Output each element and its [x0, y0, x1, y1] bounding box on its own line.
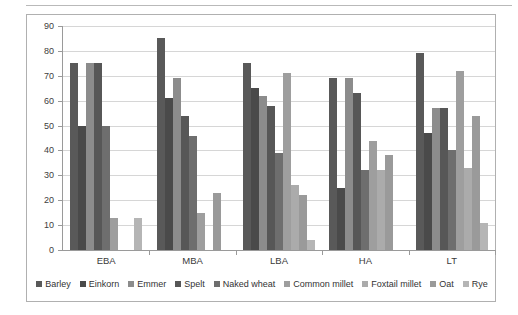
bar-group: [409, 26, 495, 250]
bar-common-millet[interactable]: [456, 71, 464, 250]
bar-spelt[interactable]: [94, 63, 102, 250]
x-axis-line: [62, 250, 496, 251]
bar-oat[interactable]: [213, 193, 221, 250]
legend-swatch-icon: [284, 281, 290, 287]
x-axis-category-tick: [495, 250, 496, 255]
bar-emmer[interactable]: [432, 108, 440, 250]
bar-emmer[interactable]: [345, 78, 353, 250]
bar-spelt[interactable]: [353, 93, 361, 250]
y-axis-tick-label: 70: [44, 71, 54, 80]
y-axis-tick-label: 50: [44, 121, 54, 130]
x-axis-category-labels: EBAMBALBAHALT: [63, 255, 495, 273]
bar-plot-area: [63, 26, 495, 250]
legend-item-common-millet[interactable]: Common millet: [284, 279, 353, 289]
bar-spelt[interactable]: [267, 106, 275, 250]
legend-item-label: Spelt: [184, 279, 205, 289]
bar-rye[interactable]: [480, 223, 488, 250]
bar-barley[interactable]: [329, 78, 337, 250]
bar-einkorn[interactable]: [337, 188, 345, 250]
legend-swatch-icon: [214, 281, 220, 287]
bar-common-millet[interactable]: [283, 73, 291, 250]
legend-item-label: Common millet: [293, 279, 353, 289]
bar-oat[interactable]: [299, 195, 307, 250]
legend-item-naked-wheat[interactable]: Naked wheat: [214, 279, 276, 289]
x-axis-category-tick: [149, 250, 150, 255]
legend-item-label: Naked wheat: [223, 279, 276, 289]
bar-group: [322, 26, 408, 250]
bar-oat[interactable]: [472, 116, 480, 250]
top-divider-rule: [26, 5, 512, 6]
legend-swatch-icon: [175, 281, 181, 287]
bar-naked-wheat[interactable]: [102, 126, 110, 250]
bar-common-millet[interactable]: [369, 141, 377, 251]
y-axis-tick-label: 90: [44, 22, 54, 31]
x-axis-label-lba: LBA: [270, 255, 288, 266]
legend-swatch-icon: [128, 281, 134, 287]
bar-group: [236, 26, 322, 250]
x-axis-label-lt: LT: [447, 255, 457, 266]
y-axis-tick-label: 40: [44, 146, 54, 155]
y-axis-tick-mark: [58, 250, 62, 251]
bar-naked-wheat[interactable]: [448, 150, 456, 250]
bar-foxtail-millet[interactable]: [377, 170, 385, 250]
bar-barley[interactable]: [243, 63, 251, 250]
legend-item-emmer[interactable]: Emmer: [128, 279, 166, 289]
y-axis-tick-mark: [58, 51, 62, 52]
y-axis-tick-label: 0: [49, 246, 54, 255]
bar-einkorn[interactable]: [424, 133, 432, 250]
legend-item-label: Emmer: [137, 279, 166, 289]
bar-emmer[interactable]: [86, 63, 94, 250]
bar-naked-wheat[interactable]: [275, 153, 283, 250]
legend-item-rye[interactable]: Rye: [463, 279, 488, 289]
bar-rye[interactable]: [307, 240, 315, 250]
bar-einkorn[interactable]: [251, 88, 259, 250]
bar-common-millet[interactable]: [110, 218, 118, 250]
y-axis-labels: 9080706050403020100: [27, 15, 57, 265]
legend-item-label: Einkorn: [89, 279, 120, 289]
chart-legend: BarleyEinkornEmmerSpeltNaked wheatCommon…: [27, 279, 497, 289]
y-axis-tick-mark: [58, 225, 62, 226]
bar-spelt[interactable]: [440, 108, 448, 250]
legend-swatch-icon: [36, 281, 42, 287]
y-axis-tick-label: 20: [44, 196, 54, 205]
legend-item-label: Foxtail millet: [371, 279, 421, 289]
y-axis-tick-mark: [58, 26, 62, 27]
legend-item-oat[interactable]: Oat: [430, 279, 454, 289]
bar-rye[interactable]: [134, 218, 142, 250]
y-axis-tick-mark: [58, 200, 62, 201]
y-axis-tick-mark: [58, 76, 62, 77]
bar-emmer[interactable]: [173, 78, 181, 250]
y-axis-tick-mark: [58, 175, 62, 176]
legend-swatch-icon: [362, 281, 368, 287]
bar-einkorn[interactable]: [78, 126, 86, 250]
chart-plot-wrapper: 9080706050403020100 EBAMBALBAHALT Barley…: [27, 15, 497, 303]
y-axis-tick-label: 10: [44, 221, 54, 230]
bar-naked-wheat[interactable]: [361, 170, 369, 250]
bar-einkorn[interactable]: [165, 98, 173, 250]
legend-swatch-icon: [80, 281, 86, 287]
x-axis-category-tick: [236, 250, 237, 255]
x-axis-category-tick: [322, 250, 323, 255]
legend-item-label: Rye: [472, 279, 488, 289]
x-axis-category-tick: [409, 250, 410, 255]
bar-barley[interactable]: [416, 53, 424, 250]
legend-swatch-icon: [430, 281, 436, 287]
bar-group: [63, 26, 149, 250]
bar-barley[interactable]: [157, 38, 165, 250]
legend-item-label: Barley: [45, 279, 71, 289]
legend-item-einkorn[interactable]: Einkorn: [80, 279, 120, 289]
bar-common-millet[interactable]: [197, 213, 205, 250]
y-axis-tick-label: 80: [44, 46, 54, 55]
bar-foxtail-millet[interactable]: [464, 168, 472, 250]
legend-item-spelt[interactable]: Spelt: [175, 279, 205, 289]
legend-item-foxtail-millet[interactable]: Foxtail millet: [362, 279, 421, 289]
legend-item-barley[interactable]: Barley: [36, 279, 71, 289]
bar-naked-wheat[interactable]: [189, 136, 197, 250]
bar-emmer[interactable]: [259, 96, 267, 250]
bar-spelt[interactable]: [181, 116, 189, 250]
y-axis-tick-label: 60: [44, 96, 54, 105]
bar-barley[interactable]: [70, 63, 78, 250]
bar-oat[interactable]: [385, 155, 393, 250]
legend-swatch-icon: [463, 281, 469, 287]
bar-foxtail-millet[interactable]: [291, 185, 299, 250]
